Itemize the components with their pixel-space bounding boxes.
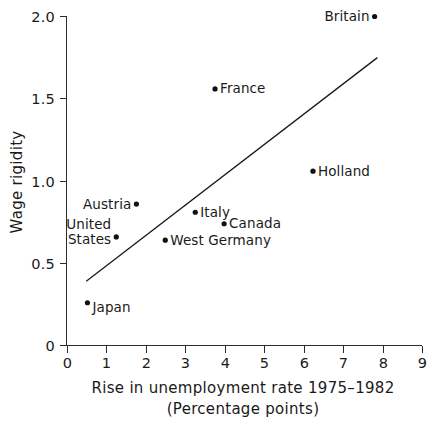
point-label-united-states: UnitedStates xyxy=(66,216,111,247)
point-label-canada: Canada xyxy=(229,215,281,231)
point-label-france: France xyxy=(220,80,266,96)
x-tick-labels: 0123456789 xyxy=(63,355,427,371)
data-point: Austria xyxy=(83,196,139,212)
y-tick-label-2-0: 2.0 xyxy=(31,9,55,25)
data-point: Canada xyxy=(222,215,282,231)
x-tick-label-3: 3 xyxy=(181,355,190,371)
x-tick-label-5: 5 xyxy=(260,355,269,371)
marker-united-states xyxy=(114,234,119,239)
data-point: UnitedStates xyxy=(66,216,119,247)
x-tick-label-6: 6 xyxy=(300,355,309,371)
point-label-japan: Japan xyxy=(91,299,130,315)
data-point: Britain xyxy=(324,8,377,24)
point-label-west-germany: West Germany xyxy=(170,232,271,248)
data-point-group: BritainFranceHollandAustriaItalyCanadaUn… xyxy=(66,8,377,315)
x-tick-label-7: 7 xyxy=(339,355,348,371)
x-tick-marks xyxy=(68,346,423,353)
data-point: Italy xyxy=(193,204,230,220)
marker-italy xyxy=(193,210,198,215)
y-tick-label-1-0: 1.0 xyxy=(31,174,55,190)
chart-canvas: 2.0 1.5 1.0 0.5 0 0123456789 BritainFran… xyxy=(0,0,436,428)
point-label-holland: Holland xyxy=(318,163,370,179)
x-tick-label-9: 9 xyxy=(418,355,427,371)
x-axis-subtitle: (Percentage points) xyxy=(167,400,320,418)
marker-britain xyxy=(372,14,377,19)
data-point: Japan xyxy=(85,299,131,315)
x-axis-title: Rise in unemployment rate 1975–1982 xyxy=(91,379,394,397)
marker-holland xyxy=(310,169,315,174)
marker-france xyxy=(212,86,217,91)
x-tick-label-2: 2 xyxy=(142,355,151,371)
x-tick-label-4: 4 xyxy=(221,355,230,371)
y-tick-label-0-5: 0.5 xyxy=(31,256,55,272)
point-label-italy: Italy xyxy=(200,204,230,220)
y-axis-title: Wage rigidity xyxy=(8,131,26,234)
wage-rigidity-scatter-figure: 2.0 1.5 1.0 0.5 0 0123456789 BritainFran… xyxy=(0,0,436,428)
marker-austria xyxy=(134,201,139,206)
y-tick-label-0: 0 xyxy=(46,338,55,354)
data-point: West Germany xyxy=(163,232,271,248)
y-tick-marks xyxy=(60,17,67,346)
x-tick-label-8: 8 xyxy=(379,355,388,371)
marker-canada xyxy=(222,221,227,226)
marker-west-germany xyxy=(163,238,168,243)
point-label-austria: Austria xyxy=(83,196,131,212)
x-tick-label-0: 0 xyxy=(63,355,72,371)
x-tick-label-1: 1 xyxy=(102,355,111,371)
axes-group xyxy=(67,16,423,346)
y-tick-label-1-5: 1.5 xyxy=(31,91,55,107)
y-tick-labels: 2.0 1.5 1.0 0.5 0 xyxy=(31,9,55,354)
marker-japan xyxy=(85,300,90,305)
data-point: Holland xyxy=(310,163,370,179)
data-point: France xyxy=(212,80,265,96)
point-label-britain: Britain xyxy=(324,8,369,24)
